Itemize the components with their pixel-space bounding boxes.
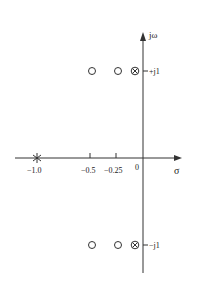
sigma-axis-arrow-icon — [174, 155, 182, 161]
label-minus-0.25: −0.25 — [104, 166, 123, 175]
label-minus-j1: −j1 — [149, 241, 160, 250]
label-minus-1.0: −1.0 — [27, 166, 42, 175]
zero-marker — [89, 242, 96, 249]
circled-x-marker — [131, 67, 139, 75]
jw-axis-label: jω — [148, 30, 158, 40]
origin-label: 0 — [135, 163, 139, 172]
jw-axis-arrow-icon — [140, 32, 146, 41]
label-minus-0.5: −0.5 — [81, 166, 96, 175]
sigma-axis-label: σ — [174, 165, 180, 176]
zero-marker — [89, 68, 96, 75]
circled-x-marker — [131, 241, 139, 249]
zero-marker — [115, 242, 122, 249]
s-plane-diagram: jω σ 0 −1.0 −0.5 −0.25 +j1 −j1 — [0, 0, 198, 287]
zero-marker — [115, 68, 122, 75]
label-plus-j1: +j1 — [149, 67, 160, 76]
